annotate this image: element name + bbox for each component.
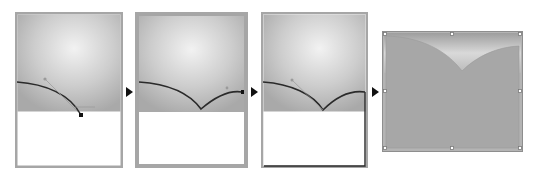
- anchor-point: [241, 90, 244, 94]
- step-3-frame: Step 3: [261, 12, 368, 168]
- arrow-right-icon: [251, 87, 258, 97]
- arrow-right-icon: [372, 87, 379, 97]
- anchor-point: [79, 113, 83, 117]
- handle-point: [226, 87, 229, 90]
- step-4-frame: Step 4: [382, 31, 523, 152]
- handle-point: [43, 77, 46, 80]
- handle-point: [291, 79, 294, 82]
- gradient-panel: [18, 15, 121, 112]
- gradient-panel: [139, 16, 244, 112]
- gradient-panel: [264, 15, 366, 112]
- step-2-frame: Step 2: [135, 12, 248, 168]
- arrow-right-icon: [126, 87, 133, 97]
- step-1-frame: Step 1: [15, 12, 123, 168]
